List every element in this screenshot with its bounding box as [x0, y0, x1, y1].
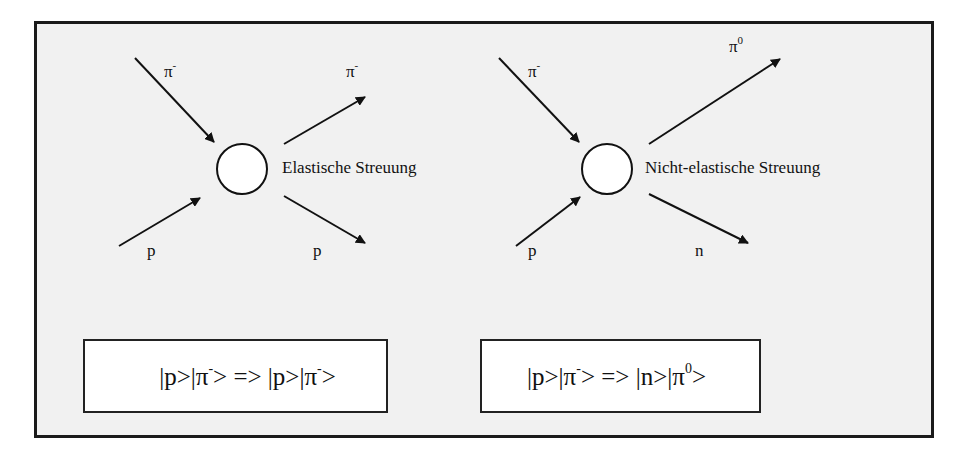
incoming-proton-arrow-icon [119, 198, 200, 246]
elastic-vertex [119, 58, 365, 246]
inelastic-title: Nicht-elastische Streuung [645, 159, 820, 176]
inelastic-formula-box: |p>|π-> => |n>|π0> [480, 339, 761, 413]
label-incoming-pion: π- [164, 63, 176, 80]
inelastic-formula: |p>|π-> => |n>|π0> [527, 364, 706, 389]
outgoing-pion-arrow-icon [284, 97, 365, 144]
elastic-formula-box: |p>|π-> => |p>|π-> [83, 339, 388, 413]
vertex-circle-icon [582, 144, 632, 194]
label-outgoing-pion: π- [346, 63, 358, 80]
label-incoming-pion: π- [528, 63, 540, 80]
label-incoming-proton: p [528, 242, 537, 259]
label-outgoing-neutron: n [695, 242, 704, 259]
elastic-title: Elastische Streuung [282, 159, 417, 176]
label-incoming-proton: p [147, 242, 156, 259]
inelastic-vertex [499, 58, 780, 246]
vertex-circle-icon [217, 144, 267, 194]
outgoing-neutron-arrow-icon [649, 194, 748, 243]
outgoing-neutral-pion-arrow-icon [649, 59, 780, 144]
label-outgoing-proton: p [313, 242, 322, 259]
incoming-proton-arrow-icon [516, 197, 580, 246]
label-outgoing-neutral-pion: π0 [729, 38, 743, 55]
elastic-formula: |p>|π-> => |p>|π-> [159, 364, 336, 389]
outgoing-proton-arrow-icon [284, 196, 365, 243]
